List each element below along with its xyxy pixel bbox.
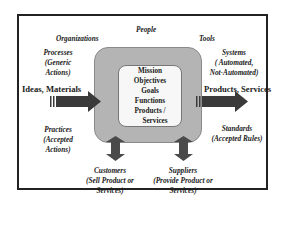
label-people: People [136, 25, 156, 35]
label-ideas-materials: Ideas, Materials [22, 84, 81, 94]
label-standards: Standards (Accepted Rules) [207, 124, 267, 144]
label-customers: Customers (Sell Product or Services) [80, 166, 140, 196]
output-arrow-icon [196, 91, 248, 112]
suppliers-double-arrow-icon [174, 136, 193, 161]
label-tools: Tools [199, 34, 215, 44]
label-products-services: Products, Services [204, 84, 271, 94]
label-practices: Practices (Accepted Actions) [38, 125, 78, 155]
label-systems: Systems ( Automated, Not-Automated) [204, 48, 264, 78]
input-arrow-icon [50, 91, 101, 112]
customers-double-arrow-icon [106, 136, 125, 161]
label-organizations: Organizations [56, 34, 99, 44]
label-processes: Processes (Generic Actions) [38, 48, 78, 78]
label-suppliers: Suppliers (Provide Product or Services) [148, 166, 218, 196]
